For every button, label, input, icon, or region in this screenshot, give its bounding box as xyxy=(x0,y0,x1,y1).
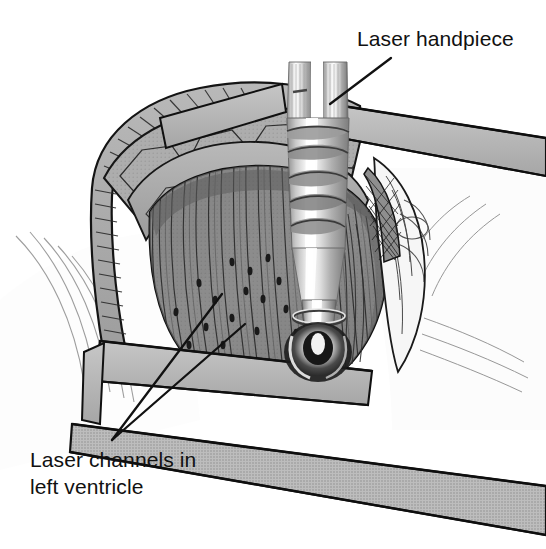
laser-channel xyxy=(261,295,266,303)
annotation-laser-channels-line1: Laser channels in xyxy=(30,448,196,471)
handpiece-laser-tip xyxy=(284,322,352,382)
laser-channel xyxy=(204,323,209,331)
laser-handpiece[interactable] xyxy=(284,62,352,382)
laser-channel xyxy=(277,277,282,285)
handpiece-prong-gap xyxy=(311,62,323,126)
illustration-figure: Laser handpiece Laser channels in left v… xyxy=(0,0,546,549)
laser-channel xyxy=(248,267,253,275)
surgical-illustration-canvas: Laser handpiece Laser channels in left v… xyxy=(0,0,546,549)
annotation-laser-handpiece: Laser handpiece xyxy=(357,27,514,50)
annotation-laser-channels-line2: left ventricle xyxy=(30,475,143,498)
retractor-band-left-leg xyxy=(82,343,104,424)
